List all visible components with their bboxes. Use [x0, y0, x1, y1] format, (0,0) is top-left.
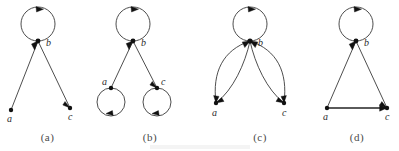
node-a-label: a	[7, 113, 12, 124]
node-c	[282, 101, 286, 105]
node-b	[36, 39, 41, 44]
edge-b-c	[133, 41, 157, 88]
node-a	[214, 101, 218, 105]
node-a	[109, 86, 113, 90]
node-c-label: c	[282, 107, 287, 118]
edge-b-c-outer	[250, 41, 285, 103]
panel-d: b a c (d)	[315, 0, 399, 151]
node-b-label: b	[141, 37, 146, 48]
panel-d-graph: b a c	[315, 0, 399, 135]
self-loop-b	[339, 7, 373, 41]
node-b	[247, 38, 252, 43]
self-loop-b	[21, 7, 55, 41]
panel-b-caption: (b)	[95, 131, 205, 143]
panel-a: b a c (a)	[0, 0, 95, 151]
node-b-label: b	[364, 37, 369, 48]
node-a	[325, 106, 329, 110]
panel-d-caption: (d)	[315, 131, 399, 143]
panel-c-caption: (c)	[205, 131, 315, 143]
self-loop-a-arrowhead	[106, 111, 113, 116]
node-b-label: b	[46, 37, 51, 48]
node-b	[131, 39, 136, 44]
node-b	[354, 39, 359, 44]
edge-b-a	[327, 41, 356, 108]
panel-a-caption: (a)	[0, 131, 95, 143]
edge-b-c	[356, 41, 387, 108]
node-a-label: a	[323, 111, 328, 122]
edge-b-c	[38, 41, 70, 108]
edge-b-a	[11, 41, 38, 110]
node-b-label: b	[258, 37, 263, 48]
self-loop-b	[233, 7, 267, 41]
node-a-label: a	[102, 76, 107, 87]
node-a-label: a	[212, 107, 217, 118]
figure-root: b a c (a) b	[0, 0, 399, 151]
edge-b-a-outer	[215, 41, 250, 103]
self-loop-b	[116, 7, 150, 41]
node-c-label: c	[68, 111, 73, 122]
panel-c-graph: b a c	[205, 0, 315, 135]
node-a	[9, 108, 13, 112]
panel-c: b a c (c)	[205, 0, 315, 151]
panel-b-graph: b a c	[95, 0, 205, 135]
self-loop-c-arrowhead	[152, 111, 159, 116]
scan-artifact	[150, 145, 250, 149]
node-c	[155, 86, 159, 90]
node-c	[385, 106, 389, 110]
node-c-label: c	[385, 111, 390, 122]
node-c-label: c	[161, 76, 166, 87]
panel-b: b a c (b)	[95, 0, 205, 151]
panel-a-graph: b a c	[0, 0, 95, 135]
node-c	[68, 106, 72, 110]
